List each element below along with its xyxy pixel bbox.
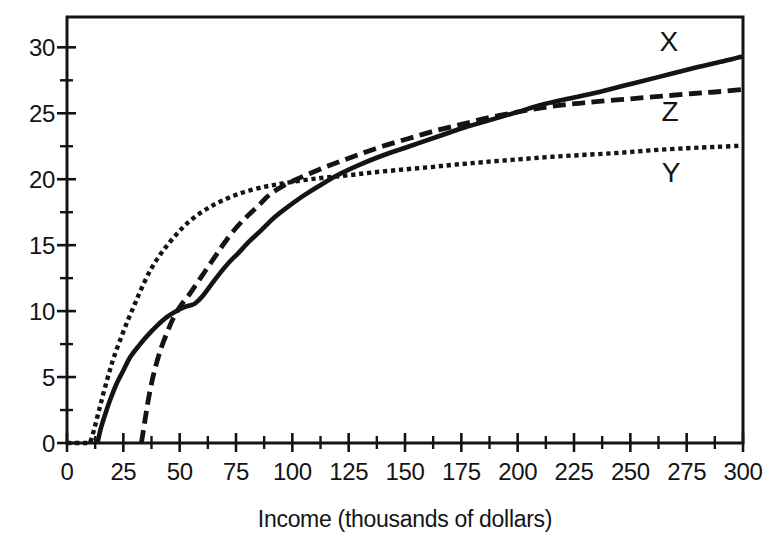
series-Y-line xyxy=(67,146,743,443)
series-X-line xyxy=(97,57,743,443)
x-tick-label: 100 xyxy=(273,458,312,485)
y-tick-label: 30 xyxy=(29,34,55,61)
y-tick-label: 5 xyxy=(42,364,55,391)
income-schedules-chart: 0255075100125150175200225250275300051015… xyxy=(0,0,777,546)
x-tick-label: 175 xyxy=(442,458,481,485)
x-tick-label: 25 xyxy=(110,458,136,485)
x-tick-label: 200 xyxy=(498,458,537,485)
series-Y-label: Y xyxy=(662,157,681,188)
y-tick-label: 15 xyxy=(29,232,55,259)
x-tick-label: 225 xyxy=(555,458,594,485)
y-tick-label: 20 xyxy=(29,166,55,193)
x-tick-label: 300 xyxy=(724,458,763,485)
series-X-label: X xyxy=(659,26,678,57)
y-tick-label: 25 xyxy=(29,100,55,127)
x-axis-title: Income (thousands of dollars) xyxy=(67,506,743,533)
x-tick-label: 50 xyxy=(167,458,193,485)
x-tick-label: 275 xyxy=(667,458,706,485)
x-tick-label: 125 xyxy=(329,458,368,485)
y-tick-label: 10 xyxy=(29,298,55,325)
y-tick-label: 0 xyxy=(42,430,55,457)
x-tick-label: 150 xyxy=(386,458,425,485)
chart-canvas: 0255075100125150175200225250275300051015… xyxy=(0,0,777,546)
series-Z-line xyxy=(141,90,743,444)
x-tick-label: 75 xyxy=(223,458,249,485)
x-tick-label: 0 xyxy=(61,458,74,485)
x-tick-label: 250 xyxy=(611,458,650,485)
series-Z-label: Z xyxy=(661,96,678,127)
